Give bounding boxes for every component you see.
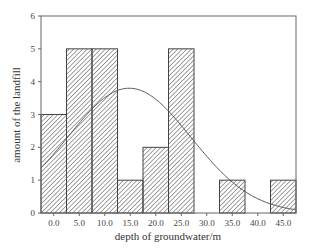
x-tick-label: 45.0 — [275, 218, 291, 228]
y-tick-label: 4 — [31, 77, 36, 87]
y-axis-label: amount of the landfill — [10, 67, 22, 163]
x-tick-label: 10.0 — [97, 218, 113, 228]
x-tick-label: 20.0 — [148, 218, 164, 228]
y-axis: 0123456 — [31, 11, 42, 218]
histogram-bar — [67, 49, 93, 213]
y-tick-label: 1 — [31, 175, 36, 185]
histogram-bar — [143, 147, 169, 213]
x-tick-label: 40.0 — [250, 218, 266, 228]
histogram-bars — [41, 49, 296, 213]
y-tick-label: 6 — [31, 11, 36, 21]
y-tick-label: 0 — [31, 208, 36, 218]
histogram-bar — [118, 180, 144, 213]
histogram-chart: 0123456 0.05.010.015.020.025.030.035.040… — [0, 0, 312, 250]
x-axis-label: depth of groundwater/m — [115, 230, 222, 242]
x-axis: 0.05.010.015.020.025.030.035.040.045.0 — [48, 213, 292, 228]
histogram-bar — [92, 49, 118, 213]
histogram-bar — [220, 180, 246, 213]
x-tick-label: 30.0 — [199, 218, 215, 228]
histogram-bar — [169, 49, 195, 213]
y-tick-label: 5 — [31, 44, 36, 54]
x-tick-label: 35.0 — [224, 218, 240, 228]
x-tick-label: 15.0 — [122, 218, 138, 228]
x-tick-label: 5.0 — [74, 218, 86, 228]
y-tick-label: 3 — [31, 110, 36, 120]
x-tick-label: 25.0 — [173, 218, 189, 228]
histogram-bar — [271, 180, 297, 213]
x-tick-label: 0.0 — [48, 218, 60, 228]
y-tick-label: 2 — [31, 142, 36, 152]
